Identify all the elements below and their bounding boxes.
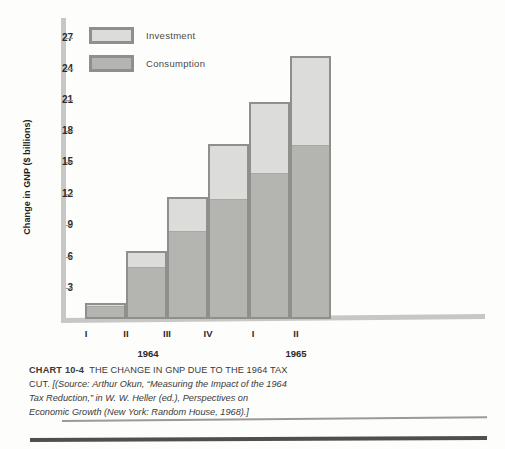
y-tick-3: 3 xyxy=(0,283,73,293)
y-tick-12: 12 xyxy=(0,189,73,199)
x-tick-label-1964-IV: IV xyxy=(188,328,228,339)
y-tick-21: 21 xyxy=(0,95,73,105)
x-tick-label-1964-I: I xyxy=(66,328,106,339)
page-rule-thick xyxy=(30,436,487,442)
bar-1965-II xyxy=(290,56,331,319)
y-axis-title: Change in GNP ($ billions) xyxy=(22,87,32,267)
x-tick-label-1964-II: II xyxy=(106,328,146,339)
y-tick-24: 24 xyxy=(0,64,73,74)
bar-segment-consumption xyxy=(169,231,206,317)
legend: Investment Consumption xyxy=(89,24,279,80)
chart-page: Change in GNP ($ billions) 27 24 21 18 1… xyxy=(0,0,505,449)
bar-1964-III xyxy=(167,197,208,319)
y-tick-15: 15 xyxy=(0,157,73,167)
bar-segment-investment xyxy=(169,199,206,231)
legend-item-investment: Investment xyxy=(89,24,279,47)
legend-swatch-consumption xyxy=(89,55,134,72)
plot-area: Change in GNP ($ billions) 27 24 21 18 1… xyxy=(0,0,505,340)
legend-swatch-investment xyxy=(89,27,134,44)
x-group-label-1965: 1965 xyxy=(266,348,326,359)
bar-1965-I xyxy=(249,102,290,319)
legend-label-consumption: Consumption xyxy=(146,58,205,69)
y-tick-9: 9 xyxy=(0,220,73,230)
bar-segment-consumption xyxy=(292,145,329,317)
caption-source-open: [(Source: xyxy=(52,379,89,389)
x-tick-label-1965-II: II xyxy=(276,328,316,339)
legend-label-investment: Investment xyxy=(146,30,195,41)
chart-caption: CHART 10-4 THE CHANGE IN GNP DUE TO THE … xyxy=(29,363,289,419)
x-tick-label-1965-I: I xyxy=(233,328,273,339)
bar-1964-IV xyxy=(208,144,249,319)
bar-segment-consumption xyxy=(210,199,247,317)
bar-segment-investment xyxy=(210,146,247,200)
y-tick-18: 18 xyxy=(0,126,73,136)
y-tick-6: 6 xyxy=(0,252,73,262)
bar-segment-investment xyxy=(251,104,288,173)
bar-segment-consumption xyxy=(128,267,165,317)
bar-segment-consumption xyxy=(251,173,288,317)
x-group-label-1964: 1964 xyxy=(118,348,178,359)
bar-segment-investment xyxy=(128,253,165,267)
bar-segment-consumption xyxy=(87,306,124,317)
legend-item-consumption: Consumption xyxy=(89,52,279,75)
x-tick-label-1964-III: III xyxy=(147,328,187,339)
bar-1964-II xyxy=(126,251,167,319)
bar-segment-investment xyxy=(292,58,329,145)
y-tick-27: 27 xyxy=(0,33,73,43)
caption-chart-number: CHART 10-4 xyxy=(29,365,84,375)
bar-1964-I xyxy=(85,303,126,319)
